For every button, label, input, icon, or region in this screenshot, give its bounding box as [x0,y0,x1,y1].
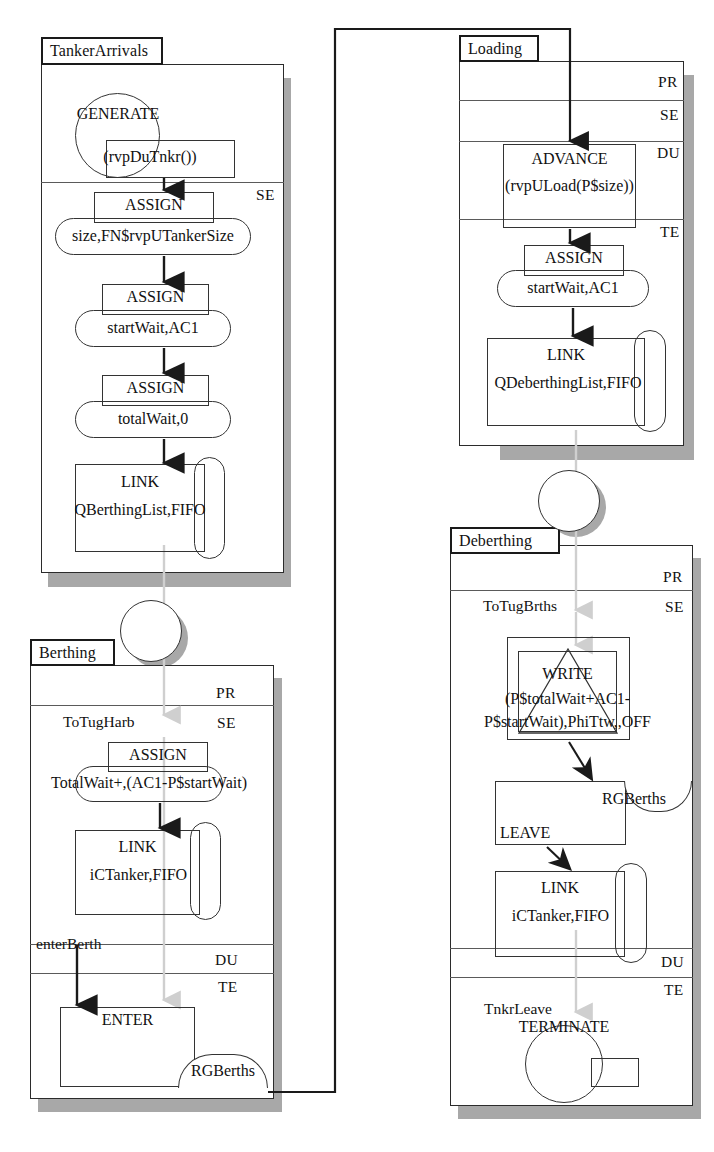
loading-tab[interactable]: Loading [459,35,539,62]
berthing-zone-te: TE [218,978,238,996]
ta-link-arg: QBerthingList,FIFO [60,501,220,519]
deberthing-title: Deberthing [459,532,532,550]
ta-assign1-arg: size,FN$rvpUTankerSize [55,227,251,245]
l-advance-op: ADVANCE [503,150,636,168]
berthing-divider-du2 [30,973,274,974]
d-terminate-circle[interactable] [525,1025,603,1103]
d-write-arg2: P$startWait),PhiTtw,,OFF [460,713,675,731]
b-assign1-op: ASSIGN [108,746,208,764]
deberthing-zone-se: SE [665,598,684,616]
d-leave-op: LEAVE [500,824,580,842]
deberthing-tab[interactable]: Deberthing [450,527,560,554]
l-assign1-op: ASSIGN [524,249,624,267]
b-enter-op: ENTER [60,1011,195,1029]
loading-zone-pr: PR [658,73,678,91]
l-link-arg: QDeberthingList,FIFO [477,374,659,392]
ta-assign3-op: ASSIGN [102,379,209,397]
generate-arg: (rvpDuTnkr()) [80,148,220,166]
deberthing-divider-pr [450,590,693,591]
ta-assign3-arg: totalWait,0 [75,410,231,428]
berthing-title: Berthing [39,644,96,662]
l-link-op: LINK [487,346,645,364]
ta-assign1-op: ASSIGN [94,196,214,214]
b-link-arg: iCTanker,FIFO [66,866,211,884]
berthing-tab[interactable]: Berthing [30,639,115,666]
transfer-node-1[interactable] [120,600,182,662]
d-leave-arg: RGBerths [602,790,696,808]
tanker-arrivals-zone-se: SE [256,186,275,204]
deberthing-entry-label: ToTugBrths [483,597,557,615]
tanker-arrivals-tab[interactable]: TankerArrivals [41,37,163,65]
deberthing-zone-pr: PR [663,568,683,586]
d-link-op: LINK [495,879,625,897]
berthing-entry-label: ToTugHarb [63,713,135,731]
ta-link-op: LINK [75,473,205,491]
berthing-divider-pr [30,705,274,706]
d-terminate-op: TERMINATE [492,1018,636,1036]
loading-zone-du: DU [657,144,680,162]
loading-zone-te: TE [660,223,680,241]
l-advance-arg: (rvpULoad(P$size)) [487,177,652,195]
transfer-node-2[interactable] [538,470,600,532]
b-link-op: LINK [75,838,200,856]
d-write-op: WRITE [518,665,617,683]
berthing-zone-du: DU [215,951,238,969]
l-assign1-arg: startWait,AC1 [497,279,649,297]
deberthing-zone-du: DU [661,953,684,971]
ta-assign2-op: ASSIGN [102,288,209,306]
deberthing-divider-du2 [450,977,693,978]
loading-divider-se [459,141,684,142]
berthing-zone-se: SE [217,714,236,732]
deberthing-zone-te: TE [664,981,684,999]
tanker-arrivals-divider-se [41,182,284,183]
b-assign1-arg: TotalWait+,(AC1-P$startWait) [28,774,270,792]
loading-title: Loading [468,40,522,58]
b-enter-arg: RGBerths [176,1062,270,1080]
berthing-zone-pr: PR [216,684,236,702]
tanker-arrivals-title: TankerArrivals [50,42,148,60]
deberthing-terminate-label: TnkrLeave [484,1000,552,1018]
ta-assign2-arg: startWait,AC1 [75,319,231,337]
berthing-enter-label: enterBerth [36,935,101,953]
d-write-arg1: (P$totalWait+AC1- [460,690,675,708]
diagram-canvas: TankerArrivals SE GENERATE (rvpDuTnkr())… [0,0,714,1152]
loading-divider-pr [459,100,684,101]
generate-op: GENERATE [63,105,173,123]
d-link-arg: iCTanker,FIFO [483,907,638,925]
loading-zone-se: SE [660,106,679,124]
